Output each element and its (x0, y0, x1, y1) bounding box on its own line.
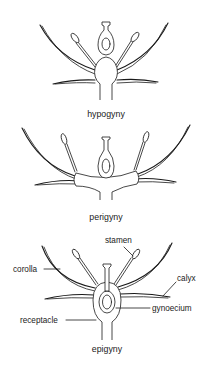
caption-hypogyny: hypogyny (87, 109, 125, 119)
label-receptacle: receptacle (20, 316, 58, 325)
epigyny-diagram: stamen corolla calyx gynoecium receptacl… (13, 236, 196, 354)
caption-perigyny: perigyny (89, 212, 123, 222)
perigyny-gynoecium (98, 137, 114, 178)
caption-epigyny: epigyny (92, 344, 123, 354)
hypogyny-diagram: hypogyny (40, 22, 168, 119)
flower-ovary-position-diagram: hypogyny perigyny (0, 0, 213, 372)
leader-calyx (163, 282, 176, 296)
leader-stamen (124, 247, 133, 256)
label-gynoecium: gynoecium (152, 304, 192, 313)
label-corolla: corolla (13, 265, 38, 274)
hypogyny-receptacle (95, 57, 118, 100)
label-stamen: stamen (105, 236, 132, 245)
label-calyx: calyx (177, 274, 196, 283)
perigyny-diagram: perigyny (22, 125, 190, 222)
hypogyny-gynoecium (98, 22, 114, 55)
